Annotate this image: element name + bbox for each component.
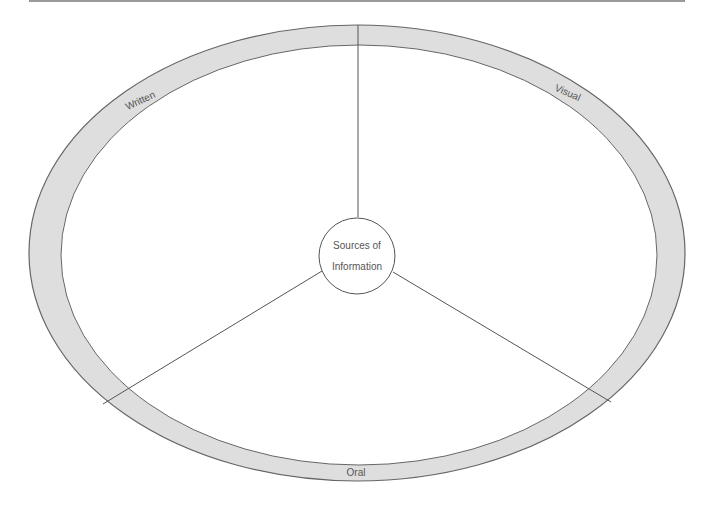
spoke-lower-left [103, 271, 322, 404]
hub-label-line1: Sources of [333, 240, 381, 251]
hub-label-line2: Information [332, 261, 382, 272]
hub-circle [319, 218, 395, 294]
spoke-lower-right [393, 272, 611, 402]
segment-label-oral: Oral [347, 467, 366, 478]
sources-diagram: Sources of Information Written Visual Or… [0, 0, 709, 513]
